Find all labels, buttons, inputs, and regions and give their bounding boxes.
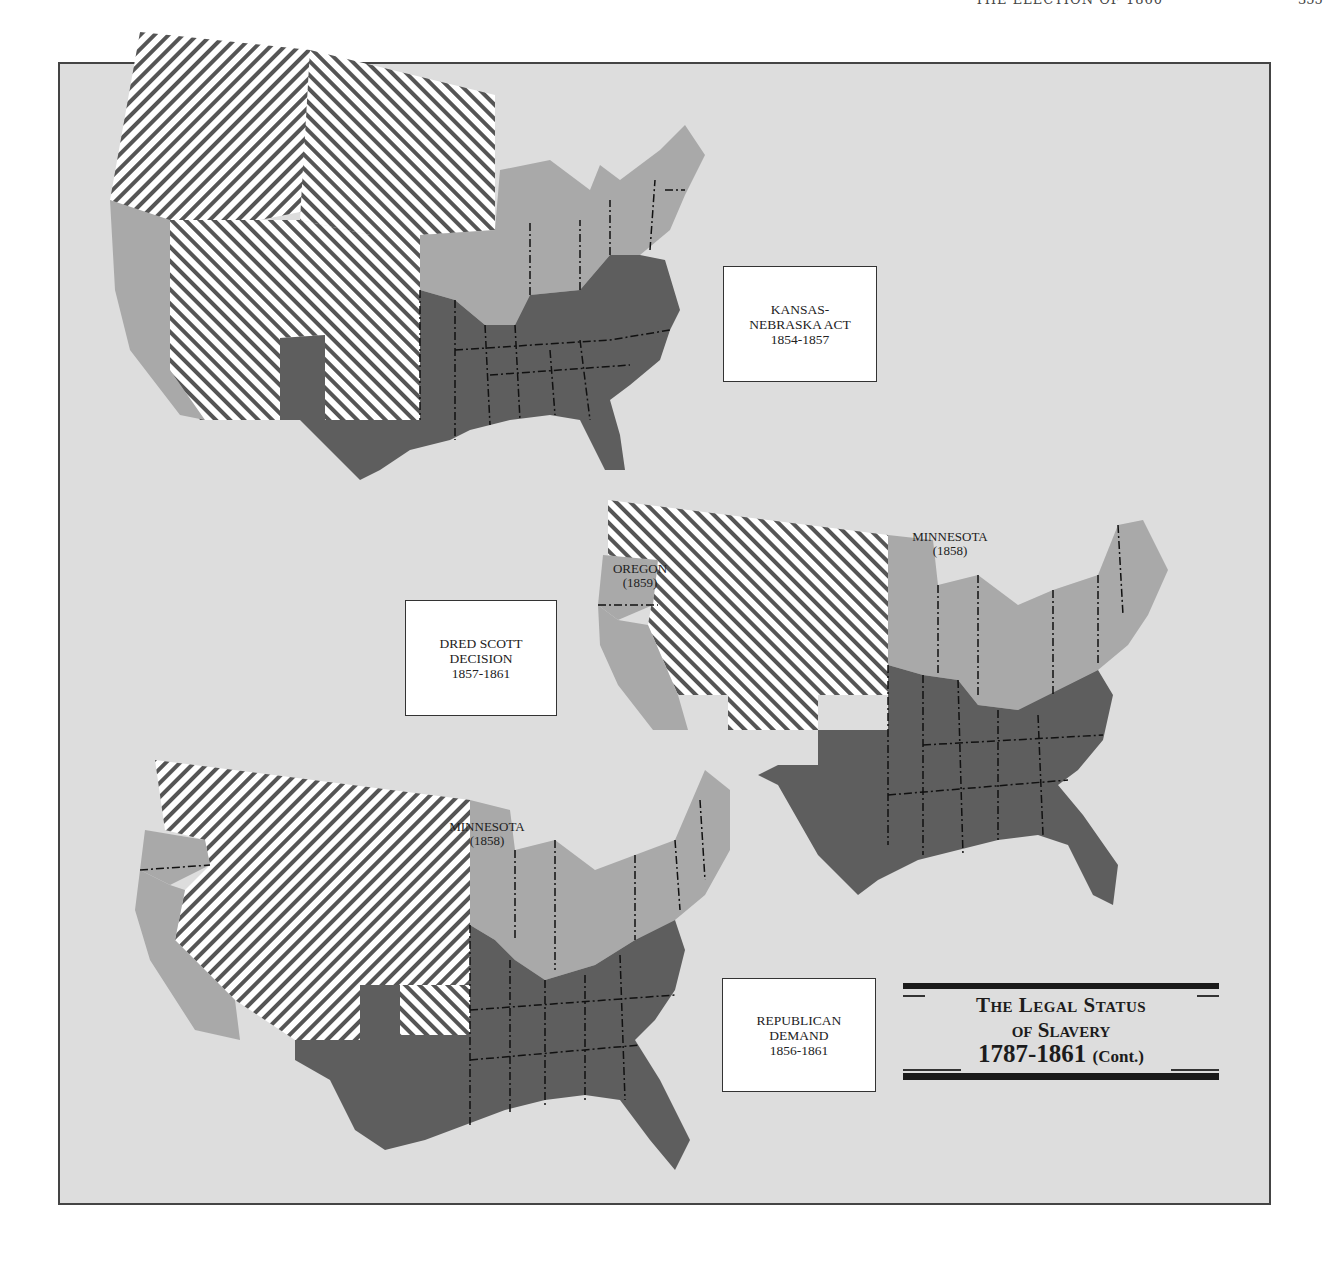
label-line: 1857-1861 (440, 666, 523, 681)
map-kansas-nebraska (110, 20, 710, 500)
label-line: KANSAS- (749, 302, 851, 317)
annotation-minnesota-dred-scott: MINNESOTA (1858) (895, 530, 1005, 558)
title-rule-under-right (1171, 1069, 1219, 1071)
title-years: 1787-1861 (978, 1040, 1086, 1067)
label-republican-demand: REPUBLICAN DEMAND 1856-1861 (722, 978, 876, 1092)
label-line: DECISION (440, 651, 523, 666)
territory-hatch-north (300, 50, 495, 235)
label-line: 1856-1861 (757, 1043, 842, 1058)
territory-hatch-indian (400, 985, 470, 1035)
label-dred-scott: DRED SCOTT DECISION 1857-1861 (405, 600, 557, 716)
label-line: DEMAND (757, 1028, 842, 1043)
title-rule-under-left (903, 1069, 961, 1071)
title-rule-bottom (903, 1073, 1219, 1080)
label-line: NEBRASKA ACT (749, 317, 851, 332)
label-line: 1854-1857 (749, 332, 851, 347)
title-block: The Legal Status of Slavery 1787-1861 (C… (903, 983, 1219, 1088)
page-number: 355 (1298, 0, 1323, 7)
free-states-north (470, 770, 730, 980)
title-line-3: 1787-1861 (Cont.) (903, 1040, 1219, 1068)
title-line-1: The Legal Status (903, 993, 1219, 1018)
title-rule-top (903, 983, 1219, 989)
title-cont: (Cont.) (1093, 1047, 1144, 1066)
annotation-minnesota-republican: MINNESOTA (1858) (432, 820, 542, 848)
map-republican-demand (115, 740, 735, 1200)
label-line: REPUBLICAN (757, 1013, 842, 1028)
label-kansas-nebraska: KANSAS- NEBRASKA ACT 1854-1857 (723, 266, 877, 382)
annotation-oregon: OREGON (1859) (600, 562, 680, 590)
running-head: THE ELECTION OF 1860 (975, 0, 1163, 7)
label-line: DRED SCOTT (440, 636, 523, 651)
